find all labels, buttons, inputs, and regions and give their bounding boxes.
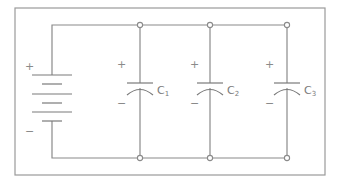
circuit-diagram: + − + − C1 + − C2 + − C3 [0,0,337,182]
node-bottom-c1 [137,155,142,160]
node-bottom-c2 [207,155,212,160]
capacitor-c2: + − C2 [190,22,239,160]
capacitor-c3: + − C3 [265,22,316,160]
battery: + − [25,60,72,138]
c3-negative-sign: − [265,97,274,110]
bottom-wire [52,121,287,158]
node-top-c3 [284,22,289,27]
node-bottom-c3 [284,155,289,160]
battery-negative-sign: − [25,125,34,138]
battery-positive-sign: + [25,60,34,73]
c1-negative-sign: − [117,97,126,110]
c3-label: C3 [304,84,316,98]
capacitor-c1: + − C1 [117,22,169,160]
c2-positive-sign: + [190,58,199,71]
top-wire [52,25,287,75]
c3-positive-sign: + [265,58,274,71]
node-top-c2 [207,22,212,27]
c1-positive-sign: + [117,58,126,71]
c2-label: C2 [227,84,239,98]
c2-negative-sign: − [190,97,199,110]
c1-label: C1 [157,84,169,98]
node-top-c1 [137,22,142,27]
